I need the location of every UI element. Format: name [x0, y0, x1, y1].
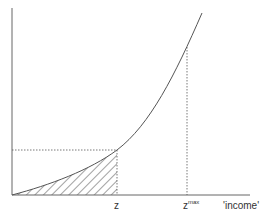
- zmax-superscript: max: [188, 199, 199, 205]
- hatched-area: [12, 140, 118, 196]
- z-tick-label: z: [114, 201, 119, 211]
- diagram-canvas: [0, 0, 269, 215]
- zmax-tick-label: zmax: [183, 201, 199, 211]
- x-axis-label: 'income': [223, 201, 259, 211]
